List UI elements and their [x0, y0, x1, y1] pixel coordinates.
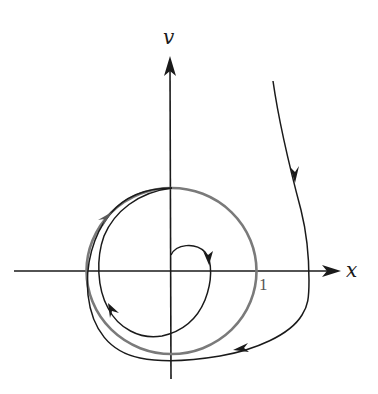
x-axis — [14, 265, 341, 277]
v-axis-label: v — [163, 25, 175, 49]
v-axis — [164, 56, 176, 379]
x-axis-label: x — [346, 258, 357, 282]
outer-trajectory — [87, 81, 309, 360]
inner-trajectory-arrow-down-icon — [203, 251, 213, 265]
phase-portrait-diagram: x v 1 — [0, 0, 378, 394]
x-tick-label-1: 1 — [259, 275, 268, 294]
outer-trajectory-arrow-left-icon — [233, 343, 249, 352]
inner-trajectory — [99, 188, 211, 337]
